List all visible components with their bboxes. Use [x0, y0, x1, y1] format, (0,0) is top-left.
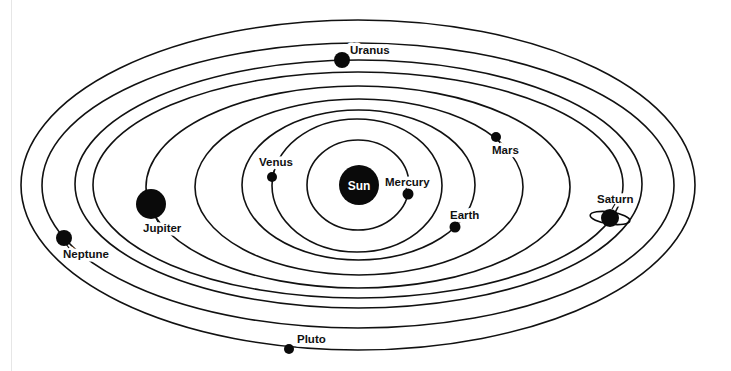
sun: Sun	[339, 165, 379, 205]
planet-saturn[interactable]	[589, 209, 630, 227]
label-uranus: Uranus	[350, 44, 390, 56]
planet-neptune[interactable]	[56, 230, 72, 246]
saturn-body	[601, 209, 619, 227]
label-neptune: Neptune	[63, 248, 109, 260]
planet-jupiter[interactable]	[136, 189, 166, 219]
label-mars: Mars	[492, 144, 519, 156]
planet-venus[interactable]	[267, 172, 277, 182]
label-mercury: Mercury	[385, 176, 430, 188]
label-pluto: Pluto	[297, 333, 326, 345]
sun-label: Sun	[348, 179, 371, 193]
label-saturn: Saturn	[597, 193, 633, 205]
planet-pluto[interactable]	[284, 344, 294, 354]
planets	[56, 52, 631, 354]
planet-mercury[interactable]	[403, 189, 414, 200]
planet-uranus[interactable]	[334, 52, 350, 68]
planet-earth[interactable]	[450, 222, 461, 233]
label-jupiter: Jupiter	[143, 222, 182, 234]
solar-system-diagram: Sun Mercury Venus Earth Mars Jupiter Sat…	[0, 0, 731, 371]
planet-mars[interactable]	[491, 132, 501, 142]
label-venus: Venus	[259, 156, 293, 168]
label-earth: Earth	[450, 209, 479, 221]
